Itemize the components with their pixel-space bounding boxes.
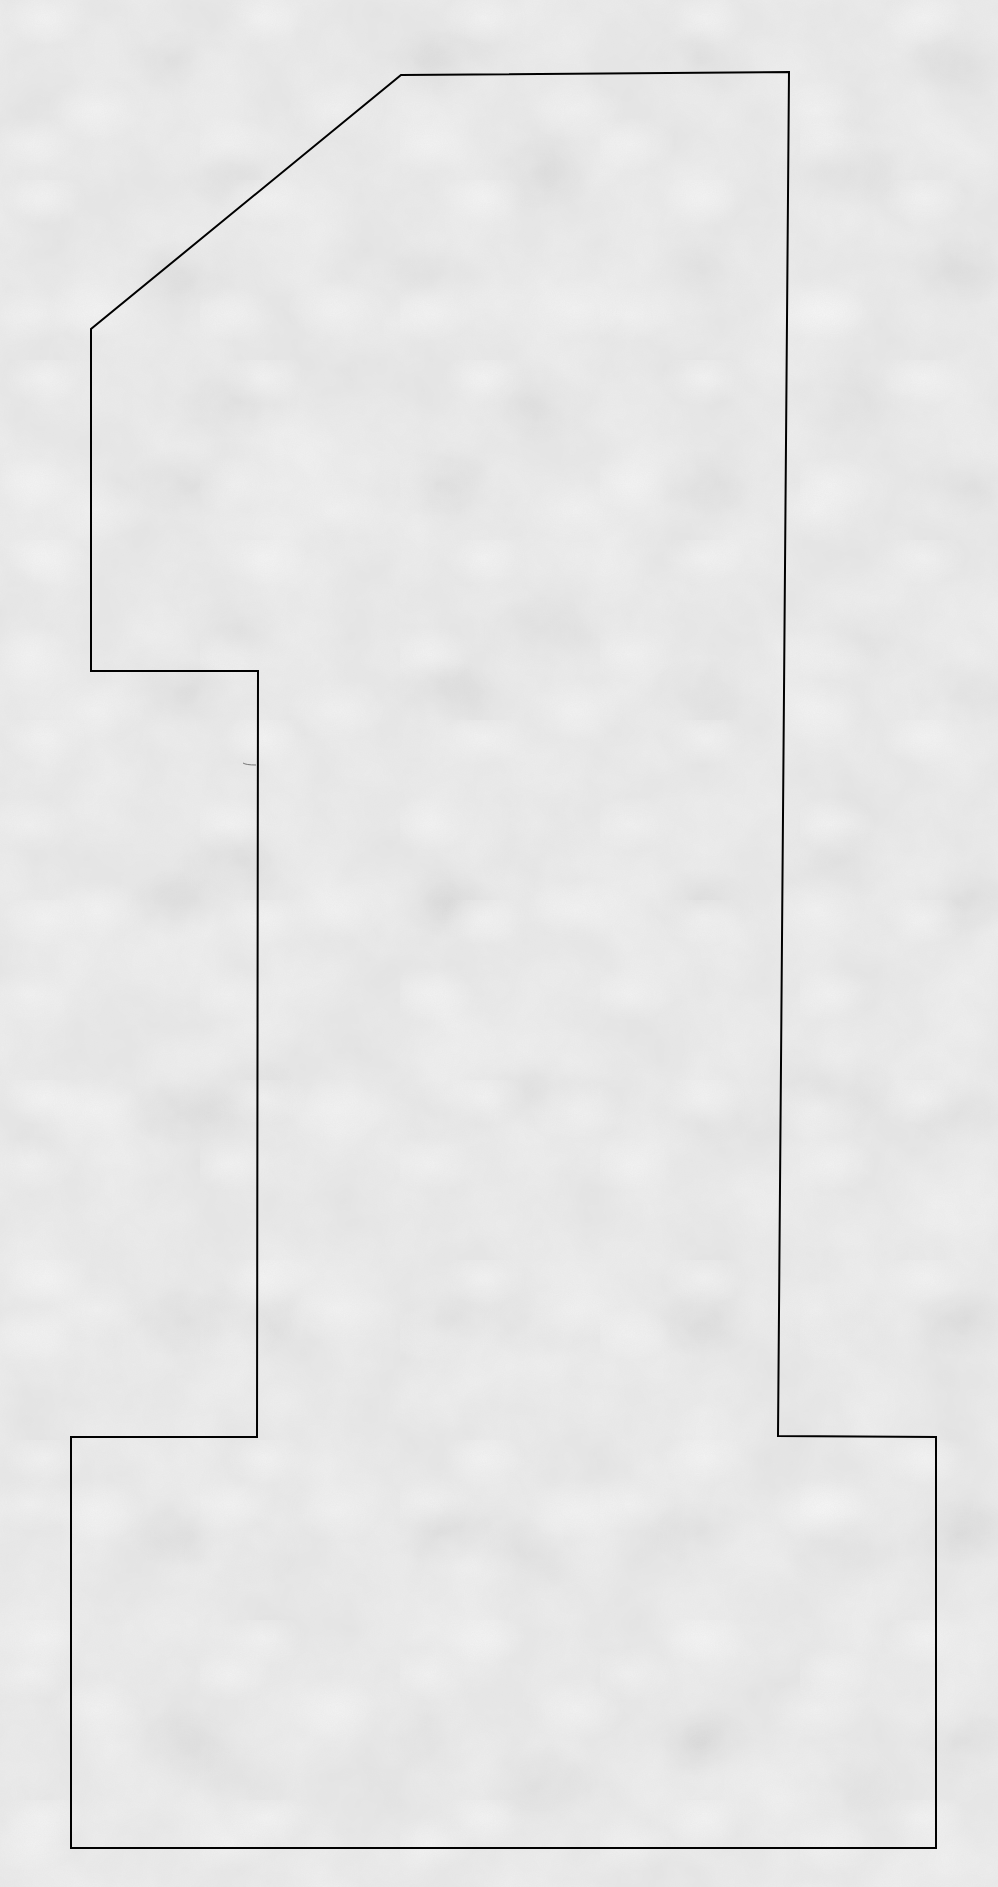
numeral-one-outline: [71, 72, 936, 1848]
small-mark: [243, 763, 256, 765]
numeral-one-figure: [0, 0, 998, 1887]
